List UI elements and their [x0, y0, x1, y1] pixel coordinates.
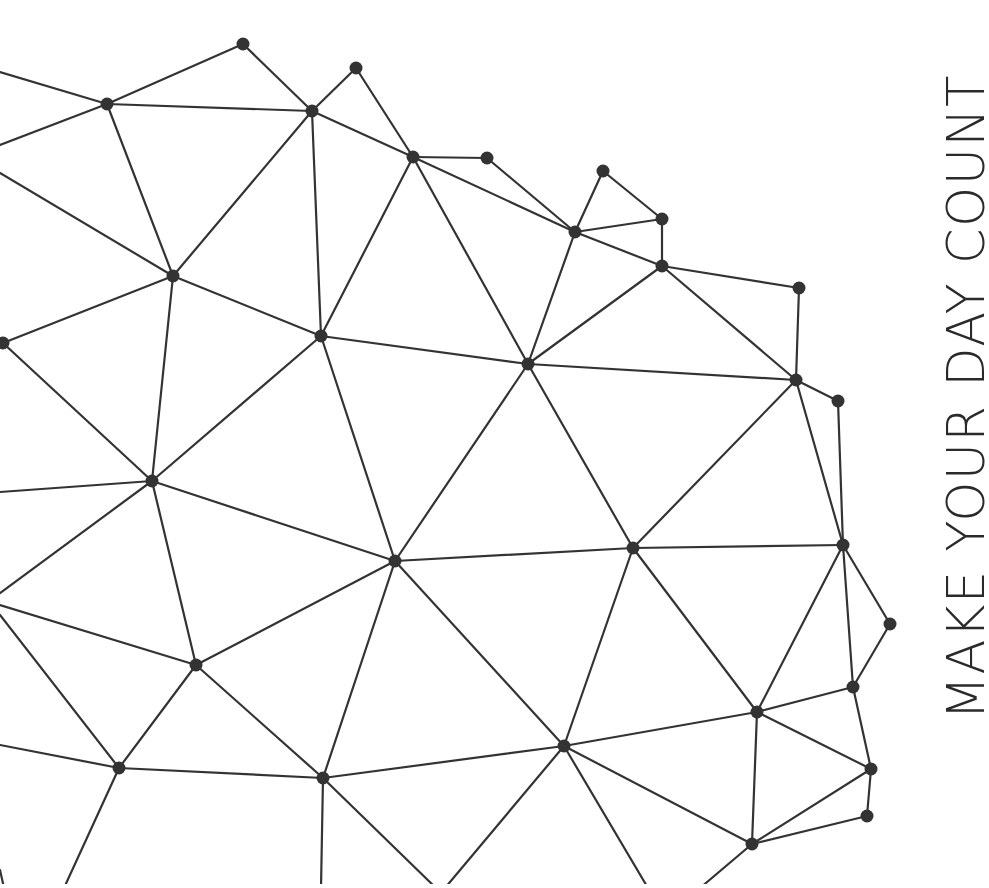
network-edge [528, 364, 796, 380]
network-node [832, 395, 845, 408]
network-edge [413, 157, 528, 364]
network-edge [757, 545, 843, 712]
network-edge [752, 769, 871, 844]
network-edge [395, 561, 564, 746]
network-edge [312, 68, 356, 111]
network-edge [843, 545, 853, 687]
network-edge [173, 276, 321, 336]
network-edge [603, 171, 662, 219]
network-edge [662, 266, 796, 380]
network-edge [564, 712, 757, 746]
network-edge [838, 401, 843, 545]
network-edge [152, 481, 395, 561]
network-node [389, 555, 402, 568]
network-node [837, 539, 850, 552]
network-edges [0, 44, 890, 888]
network-node [350, 62, 363, 75]
network-edge [3, 276, 173, 343]
network-node [746, 838, 759, 851]
tagline-text: MAKE YOUR DAY COUNT [941, 74, 989, 720]
network-edge [321, 157, 413, 336]
network-edge [152, 276, 173, 481]
network-edge [321, 336, 528, 364]
network-node [656, 260, 669, 273]
network-node [597, 165, 610, 178]
network-node [101, 98, 114, 111]
network-edge [152, 336, 321, 481]
network-edge [413, 157, 575, 232]
network-edge [633, 380, 796, 548]
network-edge [575, 171, 603, 232]
network-edge [321, 778, 323, 888]
network-edge [107, 44, 243, 104]
network-node [306, 105, 319, 118]
network-edge [757, 687, 853, 712]
network-edge [196, 665, 323, 778]
network-node [167, 270, 180, 283]
network-edge [528, 232, 575, 364]
network-edge [323, 778, 436, 888]
network-node [847, 681, 860, 694]
network-node [522, 358, 535, 371]
network-edge [321, 336, 395, 561]
network-node [190, 659, 203, 672]
network-edge [107, 104, 312, 111]
network-edge [796, 288, 799, 380]
bottom-edge [0, 884, 966, 888]
network-node [861, 810, 874, 823]
network-edge [0, 173, 173, 276]
network-node [315, 330, 328, 343]
network-node [481, 152, 494, 165]
network-node [146, 475, 159, 488]
network-edge [0, 745, 119, 768]
network-edge [633, 548, 757, 712]
network-node [237, 38, 250, 51]
network-edge [575, 232, 662, 266]
network-node [751, 706, 764, 719]
network-node [317, 772, 330, 785]
network-edge [487, 158, 575, 232]
network-edge [843, 545, 890, 624]
network-edge [107, 104, 173, 276]
network-node [407, 151, 420, 164]
network-edge [323, 746, 564, 778]
network-edge [0, 481, 152, 492]
network-edge [0, 605, 196, 665]
network-node [113, 762, 126, 775]
network-edge [700, 844, 752, 888]
network-edge [395, 364, 528, 561]
network-node [656, 213, 669, 226]
network-edge [528, 364, 633, 548]
network-edge [752, 816, 867, 844]
network-edge [575, 219, 662, 232]
network-node [865, 763, 878, 776]
network-edge [633, 545, 843, 548]
network-edge [0, 615, 119, 768]
network-nodes [0, 38, 897, 851]
network-edge [528, 266, 662, 364]
network-edge [64, 768, 119, 888]
network-edge [796, 380, 838, 401]
network-edge [867, 769, 871, 816]
network-edge [757, 712, 871, 769]
network-edge [312, 111, 321, 336]
network-edge [119, 768, 323, 778]
network-edge [413, 157, 487, 158]
network-edge [752, 712, 757, 844]
network-edge [564, 548, 633, 746]
network-edge [173, 111, 312, 276]
network-edge [3, 343, 152, 481]
network-edge [119, 665, 196, 768]
network-edge [152, 481, 196, 665]
network-edge [395, 548, 633, 561]
network-edge [853, 687, 871, 769]
network-node [558, 740, 571, 753]
network-edge [0, 72, 107, 104]
network-node [884, 618, 897, 631]
network-edge [243, 44, 312, 111]
network-node [569, 226, 582, 239]
network-edge [0, 481, 152, 593]
network-edge [0, 104, 107, 145]
network-node [790, 374, 803, 387]
